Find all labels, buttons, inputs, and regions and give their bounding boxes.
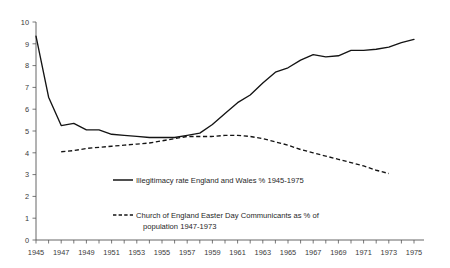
legend: Illegitimacy rate England and Wales % 19…: [113, 176, 320, 231]
series-layer: [36, 36, 414, 173]
x-tick-label: 1961: [229, 248, 245, 257]
y-tick-label: 6: [25, 105, 29, 114]
legend-label-communicants-line2: population 1947-1973: [143, 222, 216, 231]
x-tick-label: 1947: [53, 248, 69, 257]
legend-entry-communicants: Church of England Easter Day Communicant…: [113, 211, 320, 231]
series-line-communicants: [61, 135, 389, 173]
x-tick-label: 1945: [28, 248, 44, 257]
y-tick-label: 1: [25, 214, 29, 223]
x-tick-label: 1951: [103, 248, 119, 257]
x-tick-label: 1971: [355, 248, 371, 257]
x-tick-label: 1969: [330, 248, 346, 257]
axes: [36, 22, 424, 240]
y-tick-label: 10: [21, 18, 29, 27]
x-tick-label: 1963: [255, 248, 271, 257]
y-tick-label: 3: [25, 170, 29, 179]
chart-container: 012345678910 194519471949195119531955195…: [0, 0, 450, 268]
y-tick-label: 8: [25, 61, 29, 70]
x-tick-label: 1959: [204, 248, 220, 257]
legend-entry-illegitimacy: Illegitimacy rate England and Wales % 19…: [113, 176, 304, 185]
x-axis-ticks: 1945194719491951195319551957195919611963…: [28, 240, 422, 257]
legend-label-illegitimacy: Illegitimacy rate England and Wales % 19…: [136, 176, 304, 185]
x-tick-label: 1973: [381, 248, 397, 257]
x-tick-label: 1955: [154, 248, 170, 257]
x-tick-label: 1975: [406, 248, 422, 257]
y-axis-ticks: 012345678910: [21, 18, 36, 245]
y-tick-label: 4: [25, 149, 29, 158]
x-tick-label: 1967: [305, 248, 321, 257]
y-tick-label: 2: [25, 192, 29, 201]
x-tick-label: 1965: [280, 248, 296, 257]
x-tick-label: 1949: [78, 248, 94, 257]
y-tick-label: 7: [25, 83, 29, 92]
line-chart: 012345678910 194519471949195119531955195…: [0, 0, 450, 268]
legend-label-communicants-line1: Church of England Easter Day Communicant…: [136, 211, 320, 220]
x-tick-label: 1957: [179, 248, 195, 257]
x-tick-label: 1953: [129, 248, 145, 257]
y-tick-label: 5: [25, 127, 29, 136]
y-tick-label: 9: [25, 40, 29, 49]
y-tick-label: 0: [25, 236, 29, 245]
series-line-illegitimacy: [36, 36, 414, 137]
